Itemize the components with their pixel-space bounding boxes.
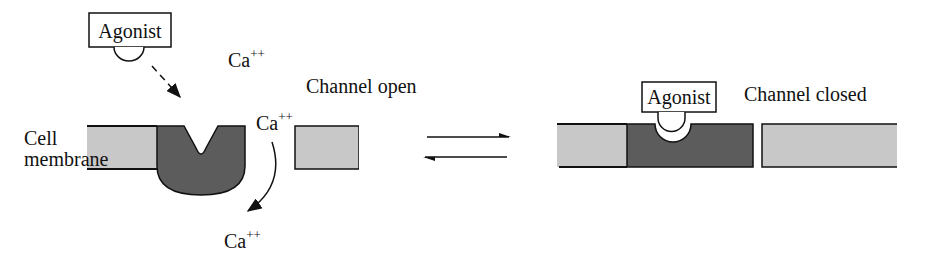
channel-protein-open xyxy=(157,126,245,195)
left-panel: Agonist Ca++ Channel open Cell membrane … xyxy=(24,13,417,252)
equilibrium-arrows-icon xyxy=(423,133,511,161)
ion-top: Ca++ xyxy=(228,46,265,71)
right-panel: Agonist Channel closed xyxy=(557,82,901,169)
agonist-label: Agonist xyxy=(98,20,162,43)
agonist-free: Agonist xyxy=(89,13,171,61)
ion-bottom: Ca++ xyxy=(224,227,261,252)
ion-channel-diagram: Agonist Ca++ Channel open Cell membrane … xyxy=(0,0,925,273)
membrane-left-closed xyxy=(557,124,627,167)
cell-label: Cell xyxy=(24,127,58,149)
membrane-right-closed xyxy=(762,124,898,167)
ion-mid: Ca++ xyxy=(256,109,293,134)
channel-closed-label: Channel closed xyxy=(744,83,867,105)
ion-flow-arrow-icon xyxy=(248,142,276,211)
membrane-right xyxy=(295,126,359,169)
membrane-label: membrane xyxy=(24,148,109,170)
dashed-arrow-icon xyxy=(152,66,180,97)
channel-protein-closed xyxy=(627,124,753,167)
channel-open-label: Channel open xyxy=(306,75,417,98)
agonist-bound-label: Agonist xyxy=(647,86,711,109)
